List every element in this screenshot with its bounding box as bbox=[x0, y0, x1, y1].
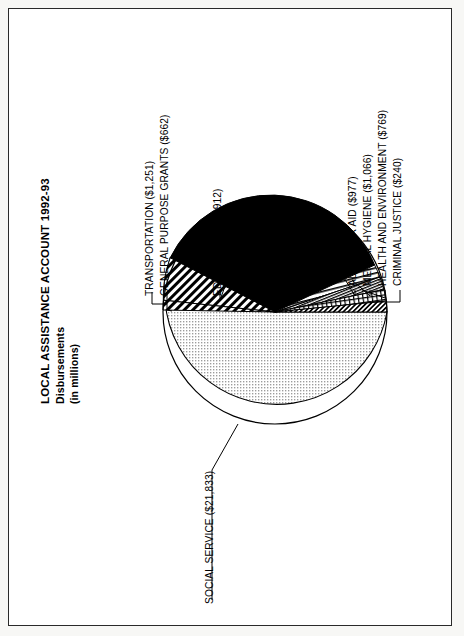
label-general-purpose-grants: GENERAL PURPOSE GRANTS ($662) bbox=[160, 115, 170, 296]
page-title: LOCAL ASSISTANCE ACCOUNT 1992-93 bbox=[40, 178, 52, 404]
figure-frame-border bbox=[8, 8, 452, 626]
label-criminal-justice: CRIMINAL JUSTICE ($240) bbox=[393, 158, 403, 286]
label-education: EDUCATION ($12,912) bbox=[213, 188, 223, 296]
page-units-note: (in millions) bbox=[69, 344, 80, 404]
label-health-and-environment: HEALTH AND ENVIRONMENT ($769) bbox=[378, 110, 388, 286]
page-subtitle: Disbursements bbox=[55, 327, 66, 404]
label-social-service: SOCIAL SERVICE ($21,833) bbox=[205, 471, 215, 604]
label-transportation: TRANSPORTATION ($1,251) bbox=[145, 161, 155, 296]
chart-page: LOCAL ASSISTANCE ACCOUNT 1992-93 Disburs… bbox=[0, 0, 464, 636]
label-mental-hygiene: MENTAL HYGIENE ($1,066) bbox=[363, 154, 373, 286]
label-all-other-aid: ALL OTHER AID ($977) bbox=[348, 176, 358, 286]
